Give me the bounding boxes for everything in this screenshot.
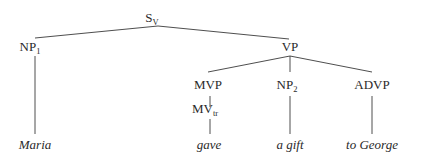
node-np2: NP2 — [277, 77, 298, 94]
leaf-maria: Maria — [18, 137, 52, 152]
node-mvp: MVP — [194, 77, 222, 92]
leaf-gave: gave — [197, 137, 222, 152]
edge-s-np1 — [35, 26, 158, 38]
node-np1: NP1 — [20, 39, 41, 56]
edge-vp-mvp — [208, 56, 290, 72]
node-vp: VP — [282, 39, 299, 54]
syntax-tree: SV NP1 VP MVP MVtr NP2 ADVP Maria gave a… — [0, 0, 423, 162]
leaf-a-gift: a gift — [276, 137, 303, 152]
node-s: SV — [145, 10, 159, 27]
leaf-to-george: to George — [346, 137, 398, 152]
node-advp: ADVP — [354, 77, 389, 92]
node-mv: MVtr — [192, 101, 218, 118]
edge-vp-advp — [290, 56, 372, 72]
edge-s-vp — [158, 26, 289, 39]
